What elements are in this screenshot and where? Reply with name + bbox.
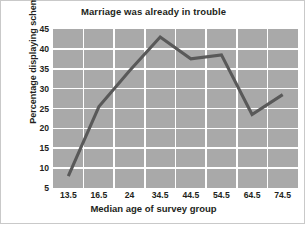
plot-area	[53, 29, 298, 188]
x-axis-tick-labels: 13.516.52434.544.554.564.574.5	[53, 190, 298, 204]
data-series-line	[53, 29, 298, 188]
y-tick-label: 25	[5, 104, 49, 114]
y-tick-label: 35	[5, 64, 49, 74]
y-tick-label: 15	[5, 143, 49, 153]
x-tick-label: 74.5	[263, 190, 303, 200]
x-axis-label: Median age of survey group	[1, 203, 306, 214]
y-tick-label: 45	[5, 24, 49, 34]
y-tick-label: 30	[5, 84, 49, 94]
chart-title: Marriage was already in trouble	[1, 6, 306, 17]
y-tick-label: 5	[5, 183, 49, 193]
y-tick-label: 20	[5, 123, 49, 133]
y-axis-tick-labels: 51015202530354045	[1, 29, 49, 188]
chart-figure: Marriage was already in trouble Percenta…	[0, 0, 305, 224]
y-tick-label: 10	[5, 163, 49, 173]
y-tick-label: 40	[5, 44, 49, 54]
